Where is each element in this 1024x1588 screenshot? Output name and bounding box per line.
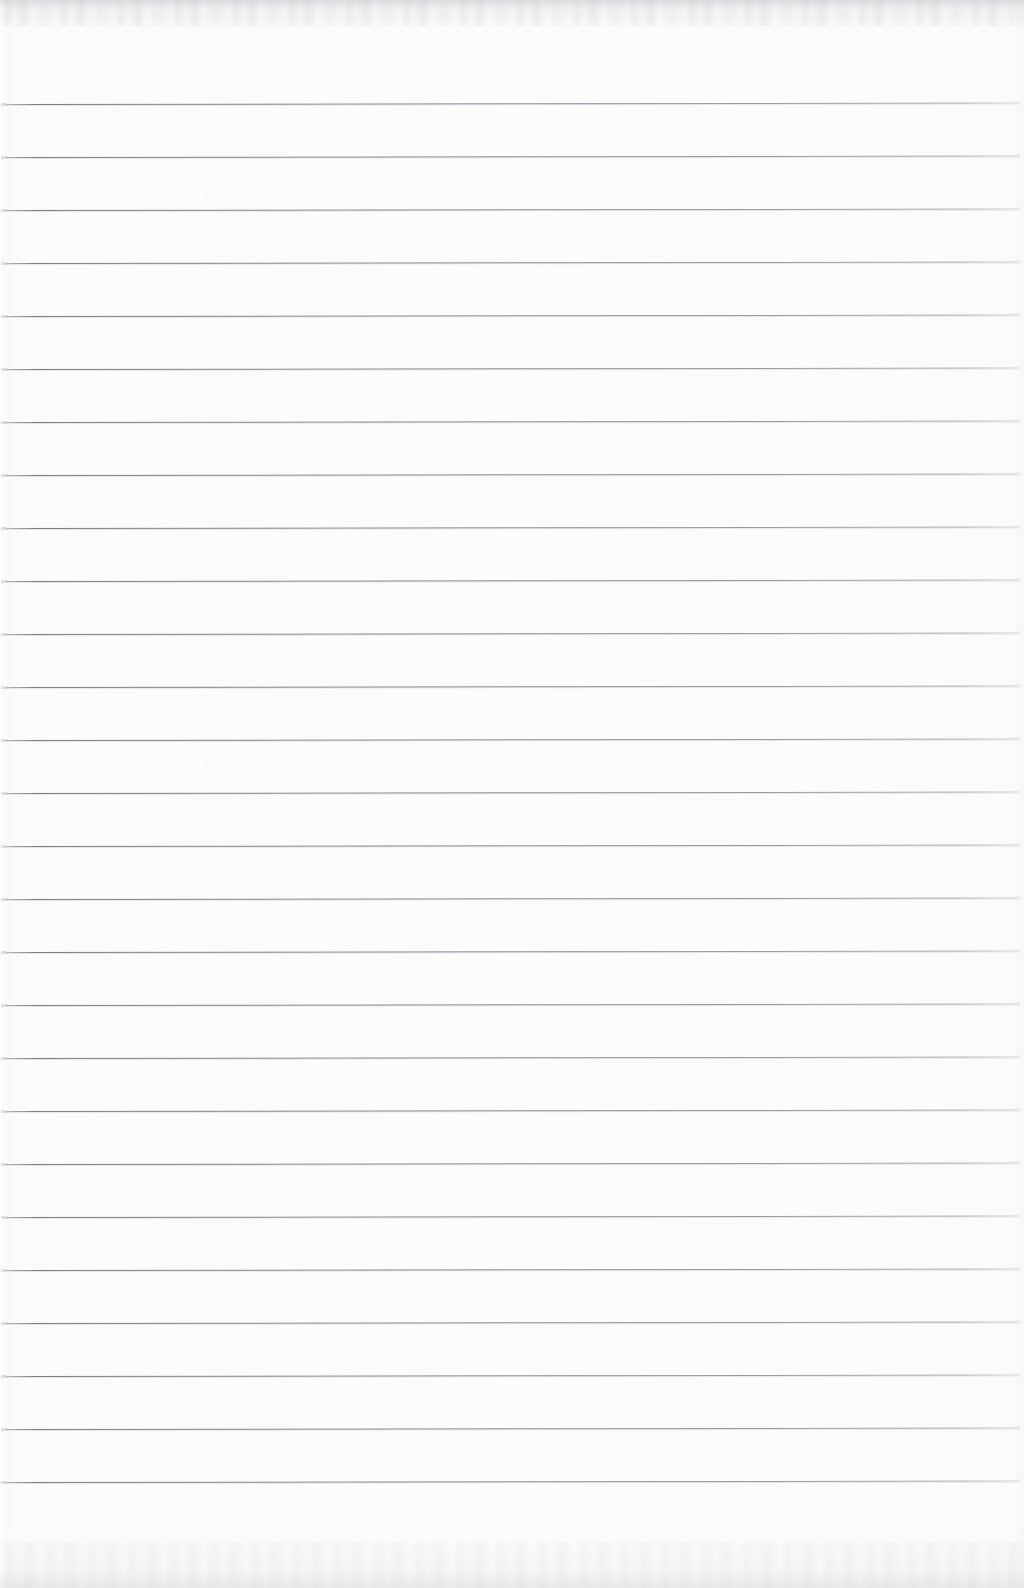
writing-area[interactable] (0, 0, 1024, 1588)
rule-line (6, 1004, 1014, 1006)
rule-line (6, 1322, 1014, 1324)
rule-line (6, 1216, 1014, 1218)
ruled-lines-group (0, 0, 1024, 1588)
rule-line (6, 951, 1014, 953)
rule-line (6, 156, 1014, 158)
rule-line (6, 474, 1014, 476)
rule-line (6, 633, 1014, 635)
rule-line (6, 1269, 1014, 1271)
rule-line (6, 686, 1014, 688)
rule-line (6, 262, 1014, 264)
rule-line (6, 1057, 1014, 1059)
rule-line (6, 1110, 1014, 1112)
rule-line (6, 739, 1014, 741)
rule-line (6, 368, 1014, 370)
rule-line (6, 898, 1014, 900)
rule-line (6, 792, 1014, 794)
scanned-page (0, 0, 1024, 1588)
rule-line (6, 103, 1014, 105)
rule-line (6, 845, 1014, 847)
rule-line (6, 421, 1014, 423)
rule-line (6, 580, 1014, 582)
rule-line (6, 315, 1014, 317)
rule-line (6, 1375, 1014, 1377)
rule-line (6, 527, 1014, 529)
rule-line (6, 1163, 1014, 1165)
rule-line (6, 1428, 1014, 1430)
rule-line (6, 1481, 1014, 1483)
rule-line (6, 209, 1014, 211)
